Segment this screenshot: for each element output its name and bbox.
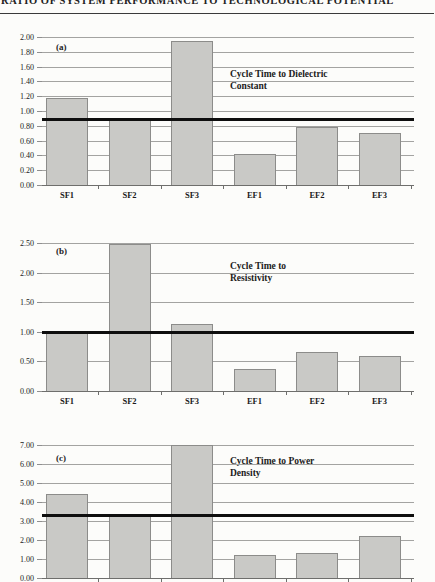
plot-area: (b) Cycle Time to Resistivity [42, 243, 414, 391]
y-tick-label: 1.00 [0, 107, 34, 116]
reference-line [42, 514, 414, 517]
gridline [42, 243, 414, 244]
y-tick-mark [37, 52, 42, 53]
y-tick-mark [37, 578, 42, 579]
bar-ef3 [359, 536, 401, 578]
x-category-label-sf2: SF2 [105, 396, 155, 406]
gridline [42, 67, 414, 68]
gridline [42, 302, 414, 303]
y-tick-label: 0.80 [0, 122, 34, 131]
x-tick [161, 185, 162, 189]
scanned-figure-page: RATIO OF SYSTEM PERFORMANCE TO TECHNOLOG… [0, 0, 435, 582]
gridline [42, 111, 414, 112]
y-tick-mark [37, 464, 42, 465]
x-tick [223, 578, 224, 582]
y-tick-mark [37, 67, 42, 68]
x-category-label-ef1: EF1 [230, 190, 280, 200]
y-tick-label: 2.00 [0, 269, 34, 278]
bar-sf3 [171, 445, 213, 578]
y-tick-label: 2.50 [0, 239, 34, 248]
bar-sf2 [109, 120, 151, 185]
annotation-line: Density [230, 468, 314, 480]
annotation-line: Cycle Time to Power [230, 456, 314, 468]
y-tick-label: 1.60 [0, 63, 34, 72]
plot-area: (c) Cycle Time to Power Density [42, 445, 414, 578]
bar-sf1 [46, 332, 88, 391]
y-tick-label: 0.00 [0, 574, 34, 582]
y-tick-label: 0.40 [0, 151, 34, 160]
y-axis-labels: 0.001.002.003.004.005.006.007.00 [0, 445, 34, 582]
reference-line [42, 331, 414, 334]
x-tick [348, 185, 349, 189]
annotation-line: Cycle Time to [230, 261, 286, 273]
x-tick [286, 185, 287, 189]
x-tick [161, 578, 162, 582]
x-tick [411, 578, 412, 582]
y-tick-mark [37, 445, 42, 446]
x-tick [98, 391, 99, 395]
x-tick [223, 185, 224, 189]
gridline [42, 502, 414, 503]
bar-sf2 [109, 515, 151, 578]
chart-panel-a: 0.000.200.400.600.801.001.201.401.601.80… [0, 37, 435, 207]
bar-sf1 [46, 494, 88, 578]
x-tick [223, 391, 224, 395]
y-tick-label: 3.00 [0, 517, 34, 526]
x-tick [411, 391, 412, 395]
y-tick-mark [37, 361, 42, 362]
figure-title: RATIO OF SYSTEM PERFORMANCE TO TECHNOLOG… [1, 0, 433, 6]
gridline [42, 464, 414, 465]
x-tick [286, 391, 287, 395]
x-category-label-ef3: EF3 [355, 190, 405, 200]
y-tick-label: 0.00 [0, 181, 34, 190]
y-tick-label: 0.50 [0, 357, 34, 366]
gridline [42, 96, 414, 97]
annotation-line: Resistivity [230, 273, 286, 285]
chart-panel-c: 0.001.002.003.004.005.006.007.00 (c) Cyc… [0, 445, 435, 582]
gridline [42, 81, 414, 82]
x-tick [348, 578, 349, 582]
gridline [42, 126, 414, 127]
bar-ef1 [234, 369, 276, 391]
x-tick [98, 185, 99, 189]
panel-label: (a) [56, 42, 67, 52]
x-category-label-ef1: EF1 [230, 396, 280, 406]
y-tick-label: 0.20 [0, 166, 34, 175]
y-tick-label: 2.00 [0, 536, 34, 545]
x-category-label-sf3: SF3 [167, 190, 217, 200]
bar-sf1 [46, 98, 88, 185]
x-tick [286, 578, 287, 582]
title-rule [0, 13, 434, 14]
bar-sf3 [171, 41, 213, 185]
y-tick-label: 2.00 [0, 33, 34, 42]
y-tick-mark [37, 559, 42, 560]
y-tick-mark [37, 126, 42, 127]
x-category-label-ef2: EF2 [292, 190, 342, 200]
x-axis-labels: SF1SF2SF3EF1EF2EF3 [42, 190, 414, 201]
running-head: RATIO OF SYSTEM PERFORMANCE TO TECHNOLOG… [1, 0, 433, 8]
chart-annotation: Cycle Time to Power Density [230, 456, 314, 479]
x-tick [98, 578, 99, 582]
y-tick-mark [37, 96, 42, 97]
x-tick [348, 391, 349, 395]
y-tick-mark [37, 81, 42, 82]
y-tick-mark [37, 540, 42, 541]
y-tick-mark [37, 155, 42, 156]
y-tick-mark [37, 332, 42, 333]
x-tick [161, 391, 162, 395]
y-axis-labels: 0.000.200.400.600.801.001.201.401.601.80… [0, 37, 34, 207]
y-tick-mark [37, 111, 42, 112]
y-tick-label: 1.20 [0, 92, 34, 101]
bar-sf3 [171, 324, 213, 391]
bar-ef2 [296, 553, 338, 578]
y-tick-label: 5.00 [0, 479, 34, 488]
gridline [42, 273, 414, 274]
x-axis-labels [42, 445, 414, 456]
bar-ef2 [296, 352, 338, 391]
gridline [42, 483, 414, 484]
y-tick-label: 7.00 [0, 441, 34, 450]
y-tick-label: 0.00 [0, 387, 34, 396]
y-tick-label: 1.00 [0, 328, 34, 337]
y-tick-mark [37, 243, 42, 244]
y-tick-mark [37, 185, 42, 186]
